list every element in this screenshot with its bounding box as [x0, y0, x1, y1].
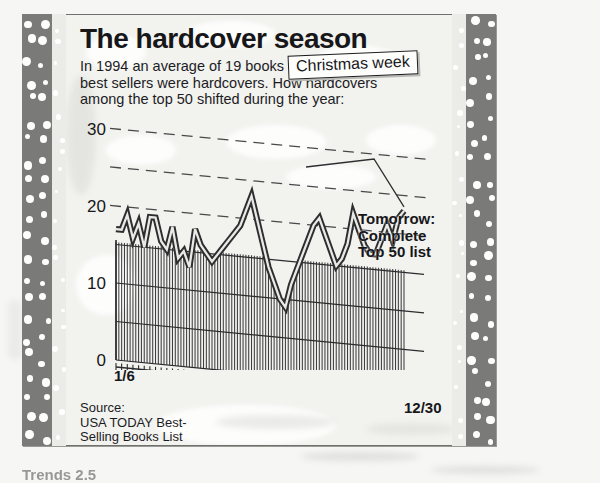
snow-dot [473, 431, 480, 438]
snow-dot [44, 394, 51, 401]
snow-dot [41, 175, 49, 183]
snow-dot [471, 140, 479, 148]
snow-dot [39, 293, 46, 300]
snow-dot [38, 36, 47, 45]
snow-dot [30, 93, 36, 99]
snow-dot [38, 93, 46, 101]
snow-dot [53, 90, 58, 95]
snow-dot [24, 161, 32, 169]
snow-dot [471, 16, 480, 25]
snow-dot [61, 278, 65, 282]
paper-texture [366, 423, 452, 435]
snow-dot [470, 313, 478, 321]
snow-dot [489, 195, 495, 201]
snow-dot [61, 325, 65, 329]
snow-dot [467, 121, 474, 128]
snow-dot [25, 430, 34, 439]
snow-dot [56, 435, 61, 440]
scan-smudge [8, 300, 22, 360]
snow-dot [24, 21, 31, 28]
snow-dot [459, 214, 462, 217]
snow-dot [53, 385, 59, 391]
tomorrow-line: Top 50 list [358, 244, 435, 261]
gridline-dashed [110, 128, 426, 159]
snow-dot [52, 346, 58, 352]
snow-dot [473, 181, 481, 189]
scan-smudge [300, 452, 420, 461]
snow-dot [456, 274, 459, 277]
snow-dot [55, 190, 58, 193]
snow-dot [46, 318, 51, 323]
snow-dot [486, 75, 491, 80]
snow-dot [453, 321, 458, 326]
snow-dot [56, 114, 62, 120]
snow-dot [58, 167, 62, 171]
gutter-right [452, 14, 466, 446]
scan-smudge [430, 466, 540, 474]
x-axis [116, 367, 424, 370]
snow-dot [482, 398, 490, 406]
snow-dot [470, 241, 477, 248]
snow-dot [467, 272, 476, 281]
snow-dot [471, 332, 479, 340]
paper-texture [216, 415, 336, 429]
snow-dot [59, 409, 65, 415]
snow-dot [43, 437, 51, 445]
snow-dot [60, 138, 65, 143]
snow-dot [488, 439, 493, 444]
snow-dot [459, 43, 464, 48]
snow-dot [43, 80, 48, 85]
cut-off-fragment: Trends 2.5 [22, 470, 152, 481]
tomorrow-line: Tomorrow: [358, 211, 435, 228]
snow-dot [27, 412, 36, 421]
source-note: Source: USA TODAY Best- Selling Books Li… [80, 401, 187, 445]
snow-dot [39, 413, 48, 422]
snow-dot [39, 334, 45, 340]
snow-dot [486, 416, 494, 424]
snow-dot [466, 99, 474, 107]
snow-dot [469, 293, 475, 299]
snow-dot [54, 61, 57, 64]
snow-dot [474, 38, 480, 44]
snow-dot [455, 151, 459, 155]
y-axis-tick-label: 30 [87, 120, 106, 139]
snow-dot [38, 361, 45, 368]
x-axis-end-label: 12/30 [404, 399, 442, 416]
snow-dot [28, 34, 36, 42]
snow-dot [482, 135, 488, 141]
snow-dot [39, 192, 46, 199]
gridline-dashed [110, 167, 426, 198]
snow-dot [457, 125, 461, 129]
newspaper-clipping: The hardcover season In 1994 an average … [22, 14, 496, 446]
snow-dot [41, 20, 50, 29]
snow-dot [459, 240, 464, 245]
snow-dot [458, 434, 463, 439]
snow-dot [43, 121, 51, 129]
snow-dot [25, 348, 33, 356]
source-line: Selling Books List [80, 430, 187, 445]
snow-dot [485, 381, 491, 387]
snow-dot [24, 278, 30, 284]
snow-dot [457, 110, 462, 115]
page-title: The hardcover season [80, 23, 367, 55]
snow-dot [474, 210, 480, 216]
snow-band-left [22, 14, 52, 446]
y-axis-tick-label: 20 [87, 197, 106, 216]
snow-dot [472, 368, 478, 374]
content-plate: The hardcover season In 1994 an average … [66, 15, 452, 445]
snow-dot [53, 219, 57, 223]
snow-dot [40, 281, 45, 286]
snow-dot [40, 135, 48, 143]
gridline-solid [116, 322, 424, 352]
snow-dot [23, 231, 31, 239]
fragment-text: Trends 2.5 [22, 470, 152, 481]
snow-dot [483, 336, 488, 341]
snow-dot [488, 116, 493, 121]
snow-dot [461, 86, 466, 91]
snow-dot [469, 77, 477, 85]
y-axis-tick-label: 0 [97, 351, 106, 370]
snow-dot [60, 149, 65, 154]
gridline-solid [116, 283, 424, 313]
snow-dot [488, 358, 494, 364]
tomorrow-promo: Tomorrow: Complete Top 50 list [358, 211, 435, 261]
